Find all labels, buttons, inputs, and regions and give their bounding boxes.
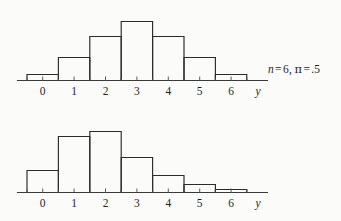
tick-labels-group-2: 0123456	[40, 197, 234, 209]
histogram-figure-2: 0123456 y n = 6, π = .3	[0, 110, 341, 221]
bar-2	[90, 37, 121, 81]
annotation-eq2-1: =	[302, 63, 311, 75]
tick-label-4: 4	[165, 197, 171, 209]
tick-label-4: 4	[165, 85, 171, 97]
x-axis-label: y	[254, 85, 261, 98]
tick-label-5: 5	[197, 85, 203, 97]
bar-4	[153, 37, 184, 81]
x-axis-label: y	[254, 197, 261, 210]
bar-1	[58, 137, 89, 193]
tick-label-2: 2	[103, 85, 109, 97]
bars-group-2	[27, 132, 247, 193]
tick-label-3: 3	[134, 197, 140, 209]
tick-label-5: 5	[197, 197, 203, 209]
tick-label-0: 0	[40, 197, 46, 209]
tick-labels-group-1: 0123456	[40, 85, 234, 97]
annotation-eq-1: =	[274, 63, 283, 75]
annotation-pi-value-1: .5	[311, 63, 320, 75]
tick-label-1: 1	[71, 197, 77, 209]
chart-annotation-1: n = 6, π = .5	[268, 62, 320, 76]
histogram-plot-2: 0123456 y	[0, 110, 341, 221]
tick-label-1: 1	[71, 85, 77, 97]
tick-marks-group-2	[27, 189, 247, 193]
bar-2	[90, 132, 121, 193]
histogram-figure-1: 0123456 y n = 6, π = .5	[0, 0, 341, 110]
tick-marks-group-1	[27, 77, 247, 81]
tick-label-2: 2	[103, 197, 109, 209]
tick-label-3: 3	[134, 85, 140, 97]
histogram-plot-1: 0123456 y	[0, 0, 341, 110]
tick-label-6: 6	[228, 85, 234, 97]
figure-page: 0123456 y n = 6, π = .5 0123456 y n = 6,…	[0, 0, 341, 221]
tick-label-0: 0	[40, 85, 46, 97]
bars-group-1	[27, 22, 247, 81]
bar-3	[121, 158, 152, 193]
bar-3	[121, 22, 152, 81]
tick-label-6: 6	[228, 197, 234, 209]
